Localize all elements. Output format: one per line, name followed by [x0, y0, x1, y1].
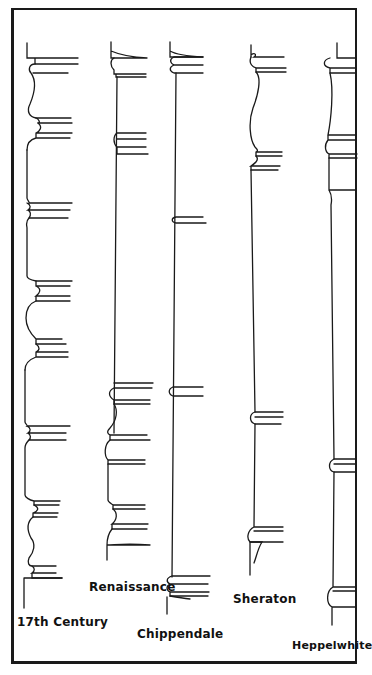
label-sheraton: Sheraton: [233, 592, 296, 606]
leg-17th-century-profile: [24, 43, 78, 608]
label-renaissance: Renaissance: [89, 580, 176, 594]
leg-heppelwhite-profile: [324, 43, 357, 625]
leg-renaissance-profile: [105, 42, 153, 560]
leg-sheraton-profile: [248, 45, 286, 575]
label-chippendale: Chippendale: [137, 627, 223, 641]
leg-chippendale-profile: [167, 42, 210, 614]
label-heppelwhite: Heppelwhite: [292, 639, 372, 652]
label-17th-century: 17th Century: [17, 615, 108, 629]
